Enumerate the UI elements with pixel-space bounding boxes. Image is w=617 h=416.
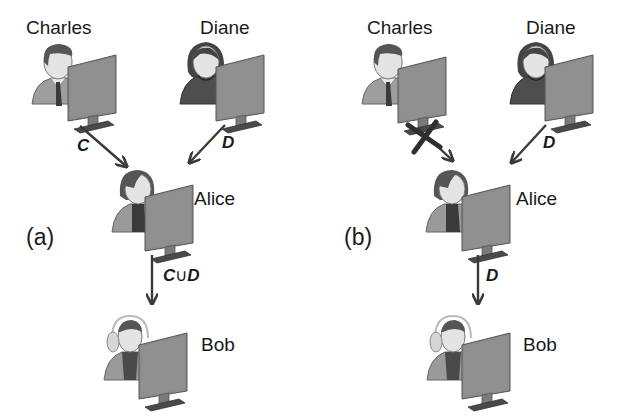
edge-label-d: D (222, 133, 234, 153)
label-diane-a: Diane (200, 17, 250, 39)
bob-icon (104, 316, 187, 411)
alice-icon (112, 170, 193, 263)
arrow-diane-to-alice (190, 125, 225, 162)
diane-icon (510, 42, 593, 133)
union-right: D (187, 266, 199, 285)
alice-icon (426, 170, 510, 263)
label-bob-b: Bob (523, 334, 557, 356)
arrow-diane-to-alice (512, 125, 546, 162)
edge-label-c-union-d: C∪D (163, 265, 200, 286)
charles-icon (32, 44, 116, 133)
panel-label-b: (b) (344, 224, 372, 251)
edge-label-d-bob: D (486, 266, 498, 286)
label-diane-b: Diane (526, 17, 576, 39)
diane-icon (180, 42, 264, 133)
edge-label-c: C (77, 136, 89, 156)
edge-label-d: D (543, 133, 555, 153)
panel-label-a: (a) (26, 224, 54, 251)
label-alice-b: Alice (516, 188, 557, 210)
label-alice-a: Alice (194, 188, 235, 210)
label-charles-b: Charles (367, 17, 432, 39)
bob-icon (427, 316, 510, 411)
panel-b (362, 42, 593, 411)
label-charles-a: Charles (26, 17, 91, 39)
union-symbol: ∪ (175, 266, 187, 285)
label-bob-a: Bob (201, 334, 235, 356)
union-left: C (163, 266, 175, 285)
